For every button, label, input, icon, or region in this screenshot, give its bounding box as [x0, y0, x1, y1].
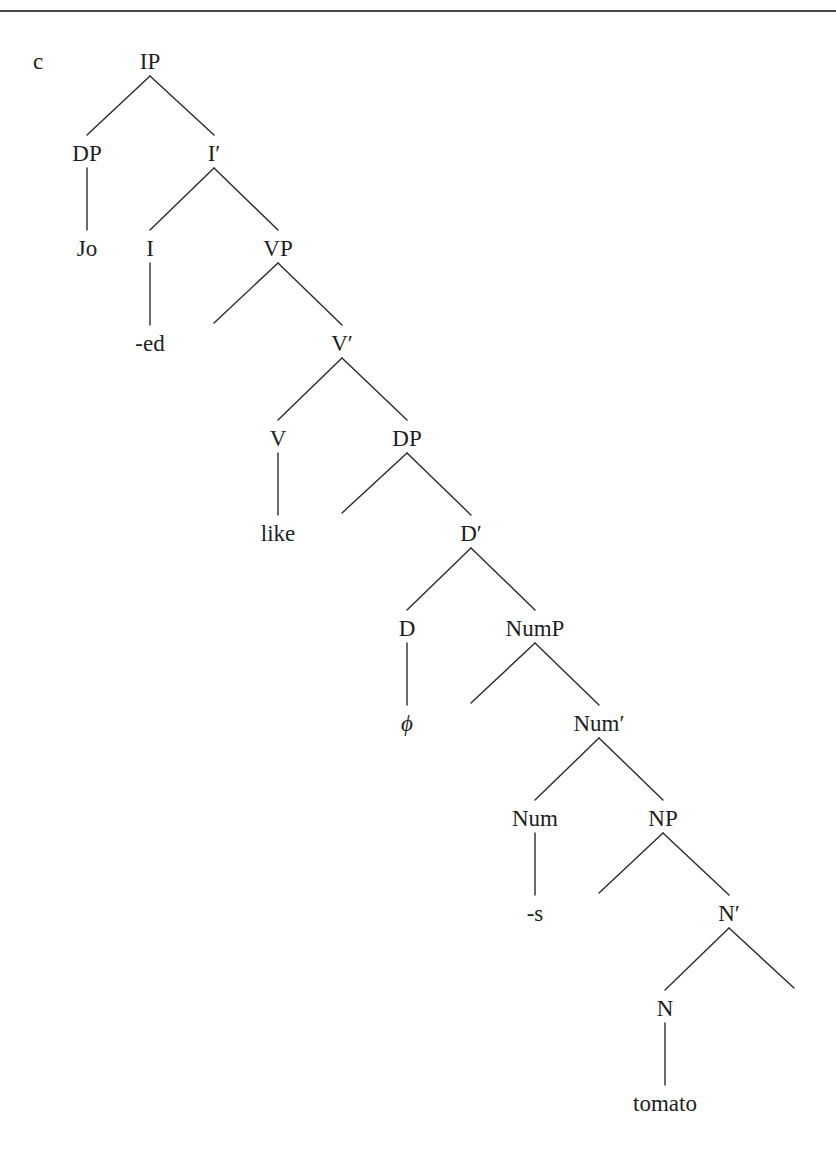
node-Jo: Jo	[77, 236, 97, 261]
empty-branch	[214, 263, 278, 323]
node-DP1: DP	[72, 141, 101, 166]
example-label: c	[33, 49, 43, 74]
node-V: V	[270, 426, 287, 451]
node-IP: IP	[140, 49, 160, 74]
node-Numbar: Num′	[573, 711, 624, 736]
branch-NP-Nbar	[663, 833, 729, 895]
node-N: N	[657, 996, 674, 1021]
node-Ibar: I′	[208, 141, 221, 166]
node-DP2: DP	[392, 426, 421, 451]
branch-VP-Vbar	[278, 263, 342, 325]
branch-IP-Ibar	[150, 76, 214, 135]
node-NP: NP	[648, 806, 677, 831]
node-s: -s	[527, 901, 544, 926]
node-tomato: tomato	[633, 1091, 697, 1116]
tree-branches	[87, 76, 794, 1085]
branch-NumP-Numbar	[535, 643, 599, 705]
empty-branch	[471, 643, 535, 703]
empty-branch	[342, 453, 407, 513]
branch-Vbar-V	[278, 358, 342, 420]
branch-Dbar-NumP	[471, 548, 535, 610]
node-I: I	[146, 236, 154, 261]
node-Nbar: N′	[718, 901, 740, 926]
node-NumP: NumP	[506, 616, 565, 641]
node-phi: ϕ	[401, 711, 413, 736]
node-ed: -ed	[135, 331, 165, 356]
branch-Dbar-D	[407, 548, 471, 610]
syntax-tree: c IPDPI′JoIVP-edV′VDPlikeD′DNumPϕNum′Num…	[0, 0, 836, 1153]
node-like: like	[261, 521, 296, 546]
branch-IP-DP1	[87, 76, 150, 135]
branch-Numbar-Num	[535, 738, 599, 800]
branch-Ibar-VP	[214, 168, 278, 230]
branch-Vbar-DP2	[342, 358, 407, 420]
node-Num: Num	[512, 806, 558, 831]
node-VP: VP	[263, 236, 292, 261]
empty-branch	[599, 833, 663, 893]
node-D: D	[399, 616, 416, 641]
branch-Ibar-I	[150, 168, 214, 230]
branch-DP2-Dbar	[407, 453, 471, 515]
branch-Nbar-N	[665, 928, 729, 990]
node-Vbar: V′	[331, 331, 353, 356]
branch-Numbar-NP	[599, 738, 663, 800]
empty-branch	[729, 928, 794, 988]
node-Dbar: D′	[460, 521, 482, 546]
